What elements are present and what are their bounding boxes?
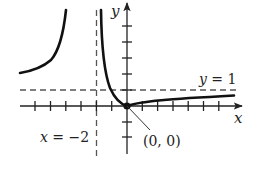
point-label-leader (127, 106, 150, 130)
x-axis-label: x (234, 109, 243, 127)
vertical-asymptote-label: x = −2 (40, 129, 89, 145)
horizontal-asymptote-label: y = 1 (198, 71, 236, 87)
curve-right-branch-tail (127, 96, 234, 107)
curve-left-branch (20, 10, 66, 73)
y-axis-label: y (110, 2, 120, 20)
function-graph: y x y = 1 x = −2 (0, 0) (0, 0, 254, 170)
point-label: (0, 0) (143, 133, 181, 149)
